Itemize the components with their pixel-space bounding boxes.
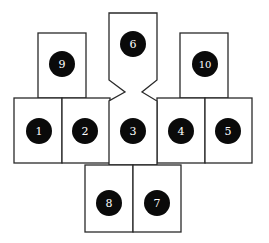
marker-label-10: 10 [199,59,212,70]
marker-5: 5 [215,118,241,144]
marker-label-4: 4 [178,125,185,138]
numbered-box-diagram: 9 6 10 1 2 3 4 5 8 7 [0,0,269,243]
marker-label-1: 1 [36,125,43,138]
marker-label-3: 3 [130,125,137,138]
marker-label-7: 7 [154,197,161,210]
marker-10: 10 [192,51,218,77]
marker-label-9: 9 [59,58,66,71]
marker-2: 2 [72,118,98,144]
marker-9: 9 [49,51,75,77]
marker-label-8: 8 [106,197,113,210]
marker-6: 6 [120,31,146,57]
marker-8: 8 [96,190,122,216]
marker-label-2: 2 [82,125,89,138]
marker-label-5: 5 [225,125,232,138]
marker-4: 4 [168,118,194,144]
marker-1: 1 [26,118,52,144]
marker-7: 7 [144,190,170,216]
marker-3: 3 [120,118,146,144]
marker-label-6: 6 [130,38,137,51]
